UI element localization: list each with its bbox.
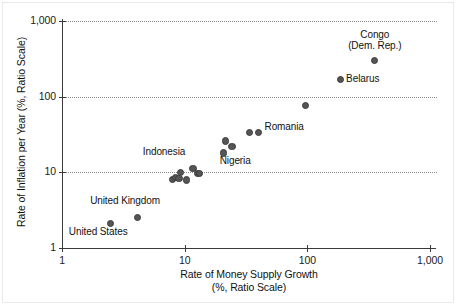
data-point xyxy=(228,143,235,150)
point-label-line: United Kingdom xyxy=(90,195,160,207)
data-point xyxy=(175,175,182,182)
x-axis-title-line2: (%, Ratio Scale) xyxy=(62,281,436,294)
y-tick-mark-10 xyxy=(59,172,66,173)
gridline-y-100 xyxy=(63,97,437,98)
point-label-belarus: Belarus xyxy=(346,73,379,85)
point-label-united-states: United States xyxy=(69,226,128,238)
x-tick-label-10: 10 xyxy=(160,254,210,266)
point-label-line: (Dem. Rep.) xyxy=(315,40,435,52)
x-tick-label-1: 1 xyxy=(37,254,87,266)
x-axis-line xyxy=(62,248,436,249)
y-tick-label-1000: 1,000 xyxy=(0,14,56,26)
point-label-line: Indonesia xyxy=(143,146,185,158)
point-label-nigeria: Nigeria xyxy=(220,155,251,167)
x-tick-mark-1000 xyxy=(430,245,431,252)
x-tick-label-1000: 1,000 xyxy=(405,254,455,266)
gridline-y-10 xyxy=(63,172,437,173)
point-label-united-kingdom: United Kingdom xyxy=(90,195,160,207)
x-tick-label-100: 100 xyxy=(282,254,332,266)
x-tick-mark-100 xyxy=(307,245,308,252)
y-axis-line xyxy=(62,19,63,250)
y-tick-label-100: 100 xyxy=(0,90,56,102)
y-axis-title: Rate of Inflation per Year (%, Ratio Sca… xyxy=(15,17,27,247)
y-tick-label-1: 1 xyxy=(0,241,56,253)
point-label-line: United States xyxy=(69,226,128,238)
scatter-plot-figure: 1101001,000 1101001,000 United StatesUni… xyxy=(0,0,458,307)
x-axis-title: Rate of Money Supply Growth (%, Ratio Sc… xyxy=(62,268,436,293)
gridline-y-1000 xyxy=(63,21,437,22)
x-tick-mark-10 xyxy=(185,245,186,252)
y-tick-mark-1000 xyxy=(59,21,66,22)
point-label-line: Nigeria xyxy=(220,155,251,167)
point-label-line: Belarus xyxy=(346,73,379,85)
point-label-indonesia: Indonesia xyxy=(143,146,185,158)
data-point xyxy=(183,176,190,183)
data-point xyxy=(337,76,344,83)
point-label-line: Congo xyxy=(315,29,435,41)
data-point xyxy=(255,129,262,136)
x-tick-mark-1 xyxy=(62,245,63,252)
y-tick-mark-100 xyxy=(59,97,66,98)
point-label-romania: Romania xyxy=(265,121,304,133)
point-label-congo-dem-rep: Congo(Dem. Rep.) xyxy=(315,29,435,52)
point-label-line: Romania xyxy=(265,121,304,133)
x-axis-title-line1: Rate of Money Supply Growth xyxy=(62,268,436,281)
y-tick-label-10: 10 xyxy=(0,165,56,177)
